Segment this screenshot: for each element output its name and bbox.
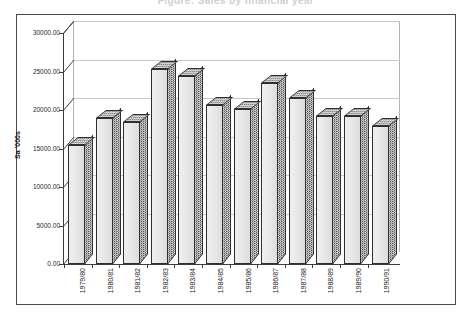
x-axis-tick <box>368 264 369 268</box>
bar-side-face <box>306 88 314 264</box>
y-axis-tick-label: 20000.00 <box>33 106 60 113</box>
x-axis-tick-label: 1983/84 <box>189 268 197 293</box>
bar-front-face <box>123 122 140 264</box>
x-axis-tick <box>312 264 313 268</box>
x-axis-tick <box>257 264 258 268</box>
bar-front-face <box>151 69 168 264</box>
bar-side-face <box>168 59 176 264</box>
bar-side-face <box>140 112 148 264</box>
bar-front-face <box>206 105 223 264</box>
y-axis-tick-label: 30000.00 <box>33 29 60 36</box>
bar-side-face <box>85 135 93 264</box>
y-axis-title: Sa '000s <box>14 115 21 175</box>
y-axis-tick-label: 0.00 <box>47 260 60 267</box>
bar <box>316 116 343 276</box>
bar-side-face <box>251 99 259 264</box>
x-axis-tick <box>64 264 65 268</box>
x-axis-tick-label: 1984/85 <box>217 268 225 293</box>
y-axis-tick-label: 10000.00 <box>33 183 60 190</box>
x-axis-tick <box>174 264 175 268</box>
bar <box>178 76 205 276</box>
x-axis-tick <box>285 264 286 268</box>
x-axis-tick <box>119 264 120 268</box>
y-axis-tick-label: 5000.00 <box>37 222 61 229</box>
x-axis-tick-label: 1988/89 <box>327 268 335 293</box>
bar-front-face <box>96 118 113 264</box>
y-axis-tick-label: 25000.00 <box>33 68 60 75</box>
bar-front-face <box>372 126 389 264</box>
y-axis-tick-leader <box>63 21 74 34</box>
bar <box>261 83 288 276</box>
x-axis-tick <box>147 264 148 268</box>
y-axis-tick-leader <box>63 98 74 111</box>
gridline <box>73 98 400 99</box>
x-axis-tick-label: 1982/83 <box>162 268 170 293</box>
bar <box>123 122 150 276</box>
x-axis-tick <box>92 264 93 268</box>
x-axis-tick <box>340 264 341 268</box>
bar-front-face <box>261 83 278 264</box>
bar-side-face <box>333 106 341 264</box>
bar-side-face <box>361 106 369 264</box>
bar <box>96 118 123 276</box>
bar-side-face <box>195 66 203 264</box>
bar-side-face <box>389 116 397 264</box>
bar <box>289 98 316 276</box>
bar-front-face <box>289 98 306 264</box>
bar-front-face <box>344 116 361 264</box>
gridline <box>73 21 400 22</box>
bar <box>68 145 95 276</box>
x-axis-tick-label: 1986/87 <box>272 268 280 293</box>
x-axis-tick-label: 1987/88 <box>300 268 308 293</box>
x-axis-tick-label: 1979/80 <box>79 268 87 293</box>
bar-front-face <box>178 76 195 264</box>
x-axis-tick <box>202 264 203 268</box>
x-axis-tick-label: 1981/82 <box>134 268 142 293</box>
bar <box>234 109 261 276</box>
x-axis-tick-label: 1980/81 <box>107 268 115 293</box>
bar <box>372 126 399 276</box>
bar <box>344 116 371 276</box>
bar-side-face <box>113 108 121 264</box>
bar-side-face <box>223 95 231 264</box>
bar-front-face <box>316 116 333 264</box>
y-axis-tick-label: 15000.00 <box>33 145 60 152</box>
x-axis-tick-label: 1990/91 <box>383 268 391 293</box>
bar <box>206 105 233 276</box>
bar-side-face <box>278 73 286 264</box>
chart-page: Figure: Sales by financial year 30000.00… <box>0 0 472 323</box>
bar-front-face <box>68 145 85 264</box>
gridline <box>73 60 400 61</box>
x-axis-tick-label: 1985/86 <box>245 268 253 293</box>
bar-front-face <box>234 109 251 264</box>
x-axis-tick <box>230 264 231 268</box>
plot-area: 30000.0025000.0020000.0015000.0010000.00… <box>0 0 472 323</box>
bar <box>151 69 178 276</box>
y-axis-tick-leader <box>63 60 74 73</box>
x-axis-tick-label: 1989/90 <box>355 268 363 293</box>
